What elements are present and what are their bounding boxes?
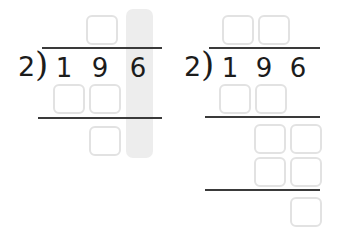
division-vinculum — [209, 47, 320, 49]
bring-down-box-3[interactable] — [254, 157, 286, 187]
subtraction-rule-2 — [205, 189, 320, 191]
divisor-digit: 2 — [18, 53, 35, 80]
bring-down-box-2[interactable] — [290, 124, 322, 154]
dividend-digit-tens: 9 — [91, 55, 109, 81]
dividend-digit-ones: 6 — [289, 55, 307, 81]
quotient-box-1[interactable] — [222, 15, 254, 45]
partial-product-box-2[interactable] — [255, 84, 287, 114]
dividend-digit-ones: 6 — [129, 55, 147, 81]
dividend-digit-tens: 9 — [255, 55, 273, 81]
partial-product-box-1[interactable] — [219, 84, 251, 114]
division-bracket-icon: ) — [201, 47, 214, 81]
problem-left: 2 ) 1 9 6 — [0, 0, 171, 231]
problem-right: 2 ) 1 9 6 — [170, 0, 341, 231]
dividend-digit-hundreds: 1 — [221, 55, 239, 81]
long-division-worksheet: 2 ) 1 9 6 2 ) 1 9 6 — [0, 0, 341, 231]
partial-product-box-2[interactable] — [89, 84, 121, 114]
quotient-box-1[interactable] — [86, 15, 118, 45]
subtraction-rule-1 — [38, 117, 162, 119]
subtraction-rule-1 — [205, 116, 320, 118]
quotient-box-2[interactable] — [258, 15, 290, 45]
remainder-box-1[interactable] — [89, 126, 121, 156]
dividend-digit-hundreds: 1 — [55, 55, 73, 81]
division-vinculum — [42, 47, 162, 49]
bring-down-box-1[interactable] — [254, 124, 286, 154]
divisor-digit: 2 — [184, 53, 201, 80]
ones-column-highlight — [126, 9, 153, 158]
bring-down-box-4[interactable] — [290, 157, 322, 187]
remainder-box-1[interactable] — [290, 197, 322, 227]
division-bracket-icon: ) — [35, 47, 48, 81]
partial-product-box-1[interactable] — [53, 84, 85, 114]
